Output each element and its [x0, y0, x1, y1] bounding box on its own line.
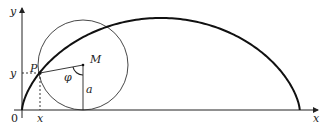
radius-a-label: a — [86, 83, 93, 96]
y-axis-label: y — [9, 5, 17, 18]
point-m — [82, 64, 85, 67]
cycloid-curve — [22, 18, 300, 110]
x-axis-label: x — [313, 112, 320, 125]
cycloid-diagram: y x 0 P M φ a x y — [0, 0, 330, 126]
x-coord-label: x — [37, 112, 44, 125]
angle-phi-label: φ — [64, 71, 72, 84]
origin-label: 0 — [11, 112, 18, 125]
point-p-label: P — [29, 62, 38, 75]
point-p — [38, 71, 41, 74]
center-m-label: M — [89, 53, 102, 66]
angle-arc — [73, 67, 83, 75]
y-coord-label: y — [9, 67, 17, 80]
